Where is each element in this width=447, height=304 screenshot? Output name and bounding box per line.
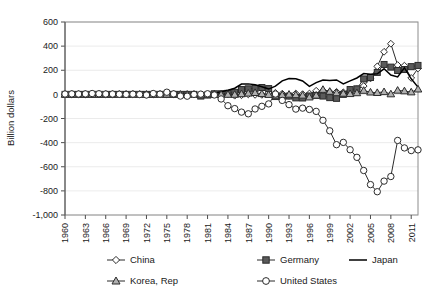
marker-open-circle bbox=[279, 97, 285, 103]
marker-filled-square bbox=[320, 93, 326, 99]
marker-open-circle bbox=[360, 167, 366, 173]
marker-open-circle bbox=[245, 111, 251, 117]
marker-open-triangle bbox=[414, 85, 422, 92]
marker-filled-square bbox=[263, 257, 269, 263]
legend-item-korea-rep[interactable]: Korea, Rep bbox=[107, 275, 178, 286]
marker-filled-square bbox=[415, 62, 421, 68]
marker-open-circle bbox=[170, 91, 176, 97]
marker-open-circle bbox=[381, 178, 387, 184]
marker-open-circle bbox=[415, 147, 421, 153]
series-layer bbox=[61, 40, 422, 195]
x-tick-label: 2008 bbox=[386, 223, 396, 243]
marker-open-circle bbox=[89, 90, 95, 96]
marker-open-circle bbox=[408, 147, 414, 153]
y-tick-label: 400 bbox=[43, 41, 58, 51]
legend-item-germany[interactable]: Germany bbox=[257, 254, 319, 265]
marker-open-circle bbox=[259, 103, 265, 109]
series-united-states bbox=[62, 89, 421, 195]
marker-open-circle bbox=[103, 91, 109, 97]
marker-open-circle bbox=[354, 154, 360, 160]
legend-label: China bbox=[130, 254, 156, 265]
marker-filled-square bbox=[381, 61, 387, 67]
x-tick-label: 1993 bbox=[284, 223, 294, 243]
marker-filled-square bbox=[327, 95, 333, 101]
marker-filled-square bbox=[334, 95, 340, 101]
y-tick-label: 600 bbox=[43, 17, 58, 27]
marker-open-diamond bbox=[374, 63, 381, 70]
marker-filled-square bbox=[395, 67, 401, 73]
line-chart: 6004002000-200-400-600-800-1,000 1960196… bbox=[0, 0, 447, 304]
marker-open-circle bbox=[374, 189, 380, 195]
marker-open-circle bbox=[394, 137, 400, 143]
y-tick-label: -1,000 bbox=[32, 210, 58, 220]
marker-open-circle bbox=[116, 91, 122, 97]
marker-open-circle bbox=[388, 173, 394, 179]
marker-filled-square bbox=[361, 76, 367, 82]
marker-open-circle bbox=[293, 106, 299, 112]
marker-open-circle bbox=[340, 139, 346, 145]
marker-open-triangle bbox=[319, 86, 327, 93]
y-axis-ticks bbox=[61, 22, 65, 215]
gridlines bbox=[65, 22, 418, 215]
marker-open-circle bbox=[123, 91, 129, 97]
x-tick-label: 1966 bbox=[101, 223, 111, 243]
x-axis-tick-labels: 1960196319661969197219751978198119841987… bbox=[60, 223, 416, 243]
series-path bbox=[65, 92, 418, 192]
x-tick-label: 1990 bbox=[264, 223, 274, 243]
legend-item-united-states[interactable]: United States bbox=[257, 275, 337, 286]
x-tick-label: 1975 bbox=[162, 223, 172, 243]
marker-open-circle bbox=[218, 96, 224, 102]
marker-open-circle bbox=[130, 91, 136, 97]
x-tick-label: 1996 bbox=[305, 223, 315, 243]
x-tick-label: 1987 bbox=[244, 223, 254, 243]
y-tick-label: -800 bbox=[40, 186, 58, 196]
x-tick-label: 2011 bbox=[407, 223, 417, 242]
marker-open-circle bbox=[177, 93, 183, 99]
chart-legend: ChinaGermanyJapanKorea, RepUnited States bbox=[107, 254, 398, 286]
x-axis-ticks bbox=[65, 215, 411, 219]
marker-open-circle bbox=[272, 91, 278, 97]
marker-open-circle bbox=[191, 91, 197, 97]
marker-open-circle bbox=[286, 101, 292, 107]
marker-open-circle bbox=[109, 91, 115, 97]
marker-open-circle bbox=[225, 103, 231, 109]
legend-item-china[interactable]: China bbox=[107, 254, 156, 265]
marker-open-circle bbox=[265, 101, 271, 107]
marker-open-circle bbox=[327, 128, 333, 134]
marker-open-circle bbox=[367, 181, 373, 187]
x-tick-label: 2002 bbox=[345, 223, 355, 243]
legend-label: United States bbox=[280, 275, 337, 286]
marker-open-circle bbox=[198, 91, 204, 97]
legend-label: Germany bbox=[280, 254, 319, 265]
marker-open-circle bbox=[69, 91, 75, 97]
marker-open-circle bbox=[232, 105, 238, 111]
marker-open-circle bbox=[184, 93, 190, 99]
marker-filled-square bbox=[388, 64, 394, 70]
marker-open-triangle bbox=[380, 88, 388, 95]
y-tick-label: -200 bbox=[40, 114, 58, 124]
chart-container: 6004002000-200-400-600-800-1,000 1960196… bbox=[0, 0, 447, 304]
marker-open-diamond bbox=[112, 256, 119, 263]
x-tick-label: 1972 bbox=[142, 223, 152, 243]
x-tick-label: 1960 bbox=[60, 223, 70, 243]
marker-open-circle bbox=[333, 141, 339, 147]
x-tick-label: 1978 bbox=[182, 223, 192, 243]
legend-item-japan[interactable]: Japan bbox=[349, 254, 398, 265]
marker-open-circle bbox=[313, 108, 319, 114]
y-tick-label: -600 bbox=[40, 162, 58, 172]
x-tick-label: 1999 bbox=[325, 223, 335, 243]
y-tick-label: -400 bbox=[40, 138, 58, 148]
marker-open-circle bbox=[164, 89, 170, 95]
marker-open-circle bbox=[211, 92, 217, 98]
x-tick-label: 1969 bbox=[121, 223, 131, 243]
y-axis-tick-labels: 6004002000-200-400-600-800-1,000 bbox=[32, 17, 58, 220]
y-tick-label: 200 bbox=[43, 65, 58, 75]
y-tick-label: 0 bbox=[53, 90, 58, 100]
x-tick-label: 1963 bbox=[81, 223, 91, 243]
marker-filled-square bbox=[408, 64, 414, 70]
marker-open-circle bbox=[306, 106, 312, 112]
marker-filled-square bbox=[367, 74, 373, 80]
marker-open-circle bbox=[157, 91, 163, 97]
marker-open-circle bbox=[299, 105, 305, 111]
marker-open-circle bbox=[347, 147, 353, 153]
